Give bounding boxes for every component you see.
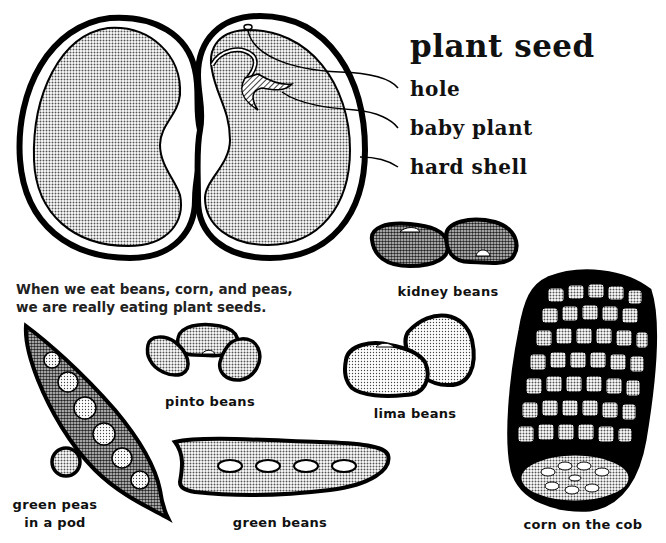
label-corn-on-the-cob: corn on the cob bbox=[510, 516, 656, 534]
hole-icon bbox=[244, 25, 252, 30]
diagram-title: plant seed bbox=[410, 28, 595, 64]
illustration-canvas bbox=[0, 0, 666, 543]
callout-baby-plant: baby plant bbox=[410, 116, 533, 140]
label-kidney-beans: kidney beans bbox=[388, 283, 508, 301]
pinto-beans-drawing bbox=[147, 325, 259, 381]
lima-beans-drawing bbox=[345, 315, 474, 395]
label-pinto-beans: pinto beans bbox=[150, 393, 270, 411]
label-green-peas-line-2: in a pod bbox=[10, 514, 100, 532]
caption-line-1: When we eat beans, corn, and peas, bbox=[16, 280, 293, 298]
callout-hard-shell: hard shell bbox=[410, 155, 528, 179]
callout-hole: hole bbox=[410, 77, 460, 101]
label-lima-beans: lima beans bbox=[360, 405, 470, 423]
seed-cross-section bbox=[20, 16, 398, 258]
caption-line-2: we are really eating plant seeds. bbox=[16, 298, 266, 316]
label-green-beans: green beans bbox=[220, 514, 340, 532]
green-beans-drawing bbox=[175, 439, 388, 495]
corn-on-the-cob-drawing bbox=[509, 271, 656, 510]
kidney-beans-drawing bbox=[372, 220, 517, 266]
label-green-peas-line-1: green peas bbox=[10, 496, 100, 514]
